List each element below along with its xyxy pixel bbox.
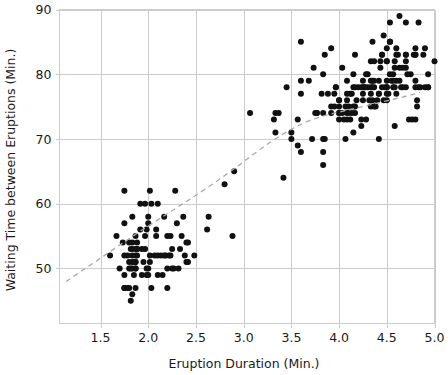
data-point [412, 84, 418, 90]
data-point [182, 253, 188, 259]
x-tick-label: 3.0 [234, 330, 254, 345]
data-point [295, 142, 301, 148]
data-point [412, 52, 418, 58]
data-point [416, 19, 422, 25]
data-point [422, 45, 428, 51]
data-point [121, 253, 127, 259]
data-point [284, 84, 290, 90]
data-point [403, 84, 409, 90]
data-point [298, 91, 304, 97]
data-point [276, 110, 282, 116]
y-tick-label: 90 [36, 2, 52, 17]
data-point [230, 233, 236, 239]
x-tick-label: 2.5 [186, 330, 206, 345]
data-point [174, 220, 180, 226]
data-point [147, 253, 153, 259]
data-point [320, 71, 326, 77]
data-point [128, 265, 134, 271]
data-point [206, 214, 212, 220]
data-point [344, 91, 350, 97]
data-point [360, 78, 366, 84]
data-point [392, 58, 398, 64]
data-point [400, 65, 406, 71]
data-point [336, 97, 342, 103]
x-tick-label: 4.0 [329, 330, 349, 345]
data-point [169, 265, 175, 271]
data-point [360, 84, 366, 90]
data-point [320, 149, 326, 155]
data-point [379, 52, 385, 58]
data-point [420, 52, 426, 58]
data-point [333, 84, 339, 90]
data-point [412, 45, 418, 51]
data-point [403, 58, 409, 64]
data-point [358, 123, 364, 129]
y-tick-label: 50 [36, 261, 52, 276]
data-point [121, 220, 127, 226]
data-point [133, 285, 139, 291]
data-point [395, 52, 401, 58]
data-point [347, 117, 353, 123]
data-point [142, 233, 148, 239]
data-point [331, 91, 337, 97]
data-point [148, 201, 154, 207]
data-point [129, 291, 135, 297]
data-point [354, 97, 360, 103]
data-point [134, 240, 140, 246]
data-point [320, 162, 326, 168]
data-point [342, 136, 348, 142]
data-point [180, 214, 186, 220]
data-point [311, 65, 317, 71]
scatter-plot-figure: 1.52.02.53.03.54.04.55.0 5060708090 Erup… [0, 0, 448, 375]
data-point [147, 259, 153, 265]
data-point [288, 130, 294, 136]
data-point [432, 58, 438, 64]
y-tick-label: 80 [36, 67, 52, 82]
x-tick-labels: 1.52.02.53.03.54.04.55.0 [91, 330, 445, 345]
data-point [134, 253, 140, 259]
data-point [158, 253, 164, 259]
data-point [387, 19, 393, 25]
data-point [153, 233, 159, 239]
data-point [369, 39, 375, 45]
data-point [363, 71, 369, 77]
data-point [379, 84, 385, 90]
data-point [113, 233, 119, 239]
data-point [121, 188, 127, 194]
data-point [144, 272, 150, 278]
data-point [325, 91, 331, 97]
data-point [247, 110, 253, 116]
data-point [360, 91, 366, 97]
data-point [377, 65, 383, 71]
data-point [172, 188, 178, 194]
data-point [121, 272, 127, 278]
data-point [371, 58, 377, 64]
data-point [179, 233, 185, 239]
data-point [319, 91, 325, 97]
data-point [393, 91, 399, 97]
data-point [117, 265, 123, 271]
data-point [155, 201, 161, 207]
y-tick-labels: 5060708090 [36, 2, 52, 276]
data-point [169, 246, 175, 252]
data-point [107, 253, 113, 259]
data-point [403, 19, 409, 25]
data-point [425, 84, 431, 90]
data-point [384, 58, 390, 64]
data-point [185, 259, 191, 265]
data-point [298, 149, 304, 155]
data-point [381, 32, 387, 38]
data-point [352, 52, 358, 58]
data-point [371, 84, 377, 90]
data-point [295, 117, 301, 123]
data-point [222, 181, 228, 187]
data-point [183, 240, 189, 246]
data-point [314, 110, 320, 116]
data-point [360, 97, 366, 103]
data-point [164, 285, 170, 291]
data-point [350, 130, 356, 136]
data-point [128, 298, 134, 304]
data-point [328, 45, 334, 51]
data-point [129, 214, 135, 220]
data-point [396, 13, 402, 19]
